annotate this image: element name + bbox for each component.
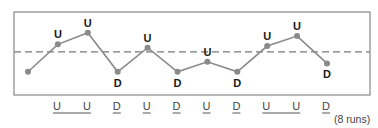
data-point	[115, 69, 121, 75]
run-letter: U	[262, 100, 270, 112]
up-label: U	[144, 32, 152, 44]
run-letter: U	[143, 100, 151, 112]
down-label: D	[323, 68, 331, 80]
data-point	[55, 41, 61, 47]
run-letter: D	[173, 100, 181, 112]
data-point	[25, 69, 31, 75]
down-label: D	[233, 77, 241, 89]
run-letter: U	[292, 100, 300, 112]
run-letter: D	[113, 100, 121, 112]
data-point	[175, 69, 181, 75]
run-letter: D	[322, 100, 330, 112]
down-label: D	[174, 77, 182, 89]
run-letter: U	[53, 100, 61, 112]
up-label: U	[84, 17, 92, 29]
up-label: U	[263, 30, 271, 42]
run-chart: UUDUDUDUUD UUDUDUDUUD (8 runs)	[0, 0, 378, 128]
run-letter: D	[232, 100, 240, 112]
data-point	[204, 59, 210, 65]
run-letter: U	[83, 100, 91, 112]
down-label: D	[114, 77, 122, 89]
up-label: U	[203, 46, 211, 58]
runs-count-label: (8 runs)	[334, 113, 370, 125]
data-point	[324, 60, 330, 66]
data-point	[294, 33, 300, 39]
up-label: U	[54, 28, 62, 40]
run-letter: U	[203, 100, 211, 112]
data-point	[264, 43, 270, 49]
data-point	[85, 30, 91, 36]
data-point	[145, 45, 151, 51]
run-sequence-row: UUDUDUDUUD	[53, 100, 330, 113]
up-label: U	[293, 20, 301, 32]
data-point	[234, 69, 240, 75]
